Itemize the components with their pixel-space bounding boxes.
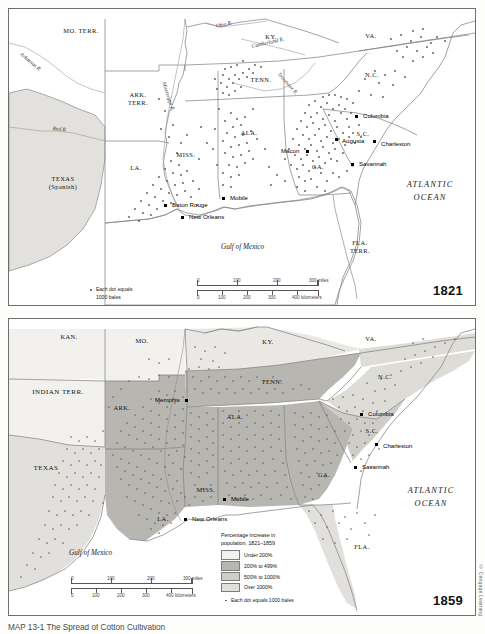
- scale-1859-km-300: 300: [142, 593, 150, 598]
- city-dot-charleston: [373, 140, 376, 143]
- city-dot-charleston-1859: [375, 443, 378, 446]
- year-label-1859: 1859: [433, 593, 463, 608]
- scale-kilometers-1859: 0 100 200 300 400 kilometers: [71, 588, 193, 597]
- legend-label-200-499: 200% to 499%: [244, 563, 277, 569]
- scale-1859-miles-0: 0: [71, 576, 74, 581]
- region-arkansas-fill: [105, 375, 187, 449]
- city-dot-mobile: [222, 197, 225, 200]
- scale-miles: 0 100 200 300 miles: [197, 280, 319, 289]
- scale-miles-1859: 0 100 200 300 miles: [71, 578, 193, 587]
- legend-title-line-2: population, 1821–1859: [221, 540, 275, 546]
- legend-label-500-1000: 500% to 1000%: [244, 574, 280, 580]
- legend-swatch-over-1000: [221, 583, 240, 592]
- city-dot-baton-rouge: [164, 204, 167, 207]
- dot-legend-1859: Each dot equals 1000 bales: [225, 597, 294, 605]
- scale-1859-miles-100: 100: [107, 576, 115, 581]
- scale-1859-km-0: 0: [71, 593, 74, 598]
- scale-1859-miles-200: 200: [147, 576, 155, 581]
- region-missouri-fill: [105, 329, 185, 381]
- dot-legend-line-1: Each dot equals: [96, 286, 133, 292]
- dot-legend-line-2: 1000 bales: [96, 294, 121, 300]
- scale-1859-km-unit: 400 kilometers: [166, 593, 196, 598]
- scale-1859-km-100: 100: [92, 593, 100, 598]
- dot-legend-text: Each dot equals1000 bales: [96, 286, 133, 301]
- legend-label-over-1000: Over 1000%: [244, 584, 272, 590]
- scale-km-200: 200: [243, 295, 251, 300]
- year-label-1821: 1821: [433, 283, 463, 298]
- city-dot-columbia-1859: [360, 413, 363, 416]
- legend-swatch-200-499: [221, 561, 240, 570]
- scale-km-0: 0: [197, 295, 200, 300]
- figure-page: MO. TERR. ARK. TERR. TEXAS (Spanish) LA.…: [0, 0, 485, 634]
- copyright-notice: © Cengage Learning: [478, 564, 484, 616]
- legend-row-500-1000: 500% to 1000%: [221, 572, 290, 581]
- scale-km-unit: 400 kilometers: [292, 295, 322, 300]
- city-dot-macon: [306, 150, 309, 153]
- city-dot-savannah: [351, 163, 354, 166]
- figure-caption: MAP 13-1 The Spread of Cotton Cultivatio…: [8, 624, 165, 632]
- city-dot-savannah-1859: [354, 466, 357, 469]
- scale-bar-1821: 0 100 200 300 miles 0 100 200 300 400 ki…: [197, 280, 319, 299]
- scale-1859-miles-unit: 300 miles: [183, 576, 203, 581]
- city-dot-mobile-1859: [223, 498, 226, 501]
- scale-1859-km-200: 200: [117, 593, 125, 598]
- dot-legend-text-1859: Each dot equals 1000 bales: [231, 597, 294, 605]
- legend-title-line-1: Percentage increase in: [221, 532, 275, 538]
- cotton-dot-icon-1859: [225, 600, 227, 602]
- scale-miles-100: 100: [233, 278, 241, 283]
- map-panel-1859: KAN. MO. INDIAN TERR. ARK. TEXAS LA. MIS…: [8, 318, 476, 616]
- legend-title: Percentage increase in population, 1821–…: [221, 531, 290, 547]
- legend-swatch-under-200: [221, 550, 240, 559]
- dot-legend-1821: Each dot equals1000 bales: [90, 286, 132, 301]
- scale-km-300: 300: [268, 295, 276, 300]
- legend-swatch-500-1000: [221, 572, 240, 581]
- scale-miles-200: 200: [273, 278, 281, 283]
- legend-row-200-499: 200% to 499%: [221, 561, 290, 570]
- legend-row-under-200: Under 200%: [221, 550, 290, 559]
- region-kansas-fill: [9, 329, 105, 379]
- map-panel-1821: MO. TERR. ARK. TERR. TEXAS (Spanish) LA.…: [8, 8, 476, 306]
- figure-caption-strip: MAP 13-1 The Spread of Cotton Cultivatio…: [8, 624, 478, 634]
- legend-label-under-200: Under 200%: [244, 552, 272, 558]
- city-dot-new-orleans: [181, 216, 184, 219]
- scale-kilometers: 0 100 200 300 400 kilometers: [197, 290, 319, 299]
- city-dot-new-orleans-1859: [184, 518, 187, 521]
- scale-bar-1859: 0 100 200 300 miles 0 100 200 300 400 ki…: [71, 578, 193, 597]
- map-1821-graphics: [9, 9, 475, 305]
- cotton-dot-icon: [90, 289, 92, 291]
- scale-miles-unit: 300 miles: [309, 278, 329, 283]
- city-dot-columbia: [355, 115, 358, 118]
- city-dot-memphis: [185, 399, 188, 402]
- choropleth-legend: Percentage increase in population, 1821–…: [221, 531, 290, 601]
- scale-miles-0: 0: [197, 278, 200, 283]
- scale-km-100: 100: [218, 295, 226, 300]
- city-dot-augusta: [335, 138, 338, 141]
- legend-row-over-1000: Over 1000%: [221, 583, 290, 592]
- region-mississippi-fill: [183, 407, 218, 507]
